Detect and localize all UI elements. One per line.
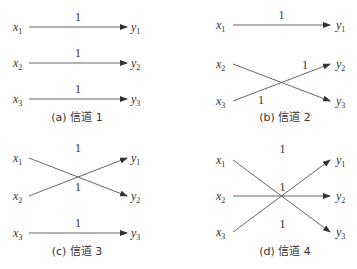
output-label-y3: y3 bbox=[130, 226, 140, 242]
input-label-x1: x1 bbox=[12, 20, 22, 36]
edge-weight-label: 1 bbox=[75, 10, 81, 24]
panel-caption: (d) 信道 4 bbox=[259, 244, 311, 258]
input-label-x2: x2 bbox=[215, 189, 225, 205]
edge-weight-label: 1 bbox=[258, 93, 264, 107]
input-label-x2: x2 bbox=[215, 57, 225, 73]
edge-weight-label: 1 bbox=[75, 141, 81, 155]
panel-b: x1x2x3y1y2y3111(b) 信道 2 bbox=[215, 8, 345, 124]
edge-weight-label: 1 bbox=[279, 8, 285, 22]
output-label-y1: y1 bbox=[335, 153, 345, 169]
panel-a: x1x2x3y1y2y3111(a) 信道 1 bbox=[12, 10, 140, 124]
input-label-x3: x3 bbox=[215, 94, 225, 110]
output-label-y3: y3 bbox=[335, 225, 345, 241]
output-label-y2: y2 bbox=[130, 189, 140, 205]
panel-caption: (c) 信道 3 bbox=[52, 244, 103, 258]
edge-weight-label: 1 bbox=[75, 46, 81, 60]
input-label-x3: x3 bbox=[215, 225, 225, 241]
edge-weight-label: 1 bbox=[75, 216, 81, 230]
output-label-y3: y3 bbox=[130, 92, 140, 108]
output-label-y1: y1 bbox=[130, 20, 140, 36]
input-label-x3: x3 bbox=[12, 226, 22, 242]
edge-weight-label: 1 bbox=[75, 82, 81, 96]
output-label-y2: y2 bbox=[130, 56, 140, 72]
input-label-x1: x1 bbox=[215, 153, 225, 169]
input-label-x3: x3 bbox=[12, 92, 22, 108]
output-label-y2: y2 bbox=[335, 57, 345, 73]
panel-caption: (b) 信道 2 bbox=[259, 110, 311, 124]
panel-c: x1x2x3y1y2y3111(c) 信道 3 bbox=[12, 141, 140, 258]
input-label-x1: x1 bbox=[12, 151, 22, 167]
panel-d: x1x2x3y1y2y3111(d) 信道 4 bbox=[215, 142, 345, 258]
edge-weight-label: 1 bbox=[302, 58, 308, 72]
edge-weight-label: 1 bbox=[280, 180, 286, 194]
input-label-x1: x1 bbox=[215, 18, 225, 34]
edge-weight-label: 1 bbox=[75, 180, 81, 194]
input-label-x2: x2 bbox=[12, 189, 22, 205]
panel-caption: (a) 信道 1 bbox=[51, 110, 102, 124]
output-label-y1: y1 bbox=[335, 18, 345, 34]
output-label-y1: y1 bbox=[130, 151, 140, 167]
edge-weight-label: 1 bbox=[280, 217, 286, 231]
edge-weight-label: 1 bbox=[280, 142, 286, 156]
input-label-x2: x2 bbox=[12, 56, 22, 72]
output-label-y3: y3 bbox=[335, 94, 345, 110]
output-label-y2: y2 bbox=[335, 189, 345, 205]
channel-diagrams: x1x2x3y1y2y3111(a) 信道 1x1x2x3y1y2y3111(b… bbox=[0, 0, 357, 269]
